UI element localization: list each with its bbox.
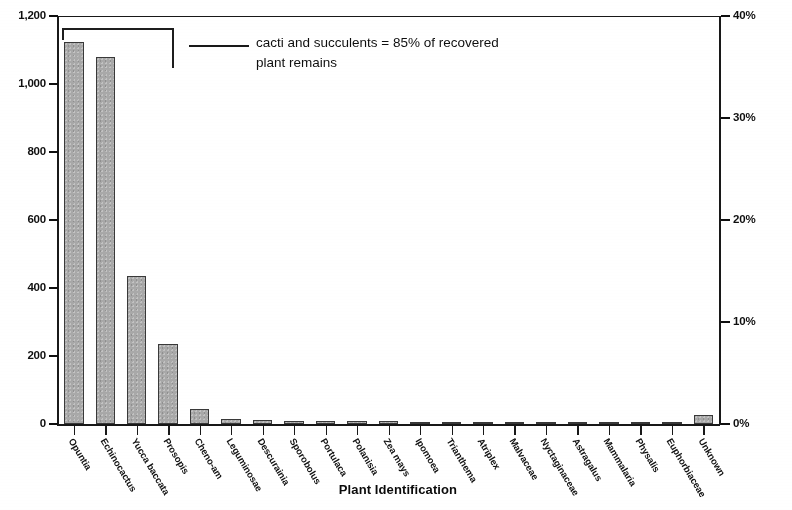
x-axis-tick	[640, 426, 641, 435]
y-axis-right-tick-label: 40%	[733, 9, 773, 21]
plot-top-border	[57, 16, 720, 17]
bar	[127, 276, 147, 424]
x-axis-tick	[577, 426, 578, 435]
y-axis-right-tick-label: 10%	[733, 315, 773, 327]
y-axis-left-tick	[49, 15, 58, 17]
x-axis-label: Astragalus	[570, 436, 604, 483]
y-axis-left-tick-label: 200	[0, 349, 46, 361]
y-axis-left-tick-label: 800	[0, 145, 46, 157]
x-axis-tick	[672, 426, 673, 435]
bar	[158, 344, 178, 424]
y-axis-right-tick-label: 30%	[733, 111, 773, 123]
x-axis-tick	[105, 426, 106, 435]
x-axis-tick	[231, 426, 232, 435]
y-axis-right-tick	[721, 423, 730, 425]
x-axis-tick	[546, 426, 547, 435]
x-axis-label: Descurainia	[256, 436, 293, 487]
bar	[221, 419, 241, 424]
x-axis-label: Opuntia	[67, 436, 95, 472]
x-axis-tick	[514, 426, 515, 435]
bar	[694, 415, 714, 425]
bar	[64, 42, 84, 425]
y-axis-left-tick	[49, 287, 58, 289]
bar	[253, 420, 273, 424]
x-axis-tick	[420, 426, 421, 435]
x-axis-label: Polanisia	[350, 436, 380, 477]
y-axis-left-tick	[49, 83, 58, 85]
x-axis-title: Plant Identification	[248, 482, 548, 497]
x-axis-tick	[74, 426, 75, 435]
bar	[316, 421, 336, 424]
x-axis-label: Unknown	[696, 436, 727, 478]
x-axis-label: Trianthema	[445, 436, 480, 484]
y-axis-left-tick-label: 1,000	[0, 77, 46, 89]
bracket-right-tick	[172, 28, 174, 68]
x-axis-label: Prosopis	[161, 436, 191, 476]
bar	[631, 422, 651, 424]
x-axis-tick	[357, 426, 358, 435]
x-axis-label: Atriplex	[476, 436, 503, 471]
x-axis-tick	[483, 426, 484, 435]
y-axis-right-tick	[721, 219, 730, 221]
annotation-line-1: cacti and succulents = 85% of recovered	[256, 35, 499, 50]
x-axis-label: Portulaca	[319, 436, 350, 478]
x-axis-label: Physalis	[633, 436, 662, 474]
bar	[284, 421, 304, 424]
y-axis-right-tick	[721, 117, 730, 119]
y-axis-right-tick-label: 0%	[733, 417, 773, 429]
annotation-leader-line	[189, 45, 249, 47]
y-axis-left-tick	[49, 423, 58, 425]
bar	[662, 422, 682, 424]
bar-chart: 02004006008001,0001,200 0%10%20%30%40% O…	[0, 0, 792, 510]
x-axis-tick	[452, 426, 453, 435]
y-axis-left-tick-label: 600	[0, 213, 46, 225]
y-axis-left-tick	[49, 355, 58, 357]
scan-grain-overlay	[0, 0, 792, 510]
x-axis-tick	[263, 426, 264, 435]
y-axis-right-tick	[721, 15, 730, 17]
y-axis-right-tick-label: 20%	[733, 213, 773, 225]
x-axis-label: Cheno-am	[193, 436, 226, 481]
y-axis-left-tick	[49, 219, 58, 221]
bar	[379, 421, 399, 424]
x-axis-tick	[703, 426, 704, 435]
y-axis-left-tick-label: 400	[0, 281, 46, 293]
bar	[347, 421, 367, 424]
bar	[568, 422, 588, 424]
y-axis-left-tick	[49, 151, 58, 153]
bar	[190, 409, 210, 424]
bracket-left-tick	[62, 28, 64, 40]
bar	[599, 422, 619, 424]
annotation-text: cacti and succulents = 85% of recovered …	[256, 33, 586, 72]
bracket-top-segment	[62, 28, 174, 30]
x-axis-label: Zea mays	[382, 436, 413, 478]
x-axis-label: Ipomoea	[413, 436, 442, 475]
x-axis-label: Mammalaria	[602, 436, 639, 488]
y-axis-left-tick-label: 1,200	[0, 9, 46, 21]
bar	[442, 422, 462, 424]
x-axis-tick	[168, 426, 169, 435]
annotation-line-2: plant remains	[256, 55, 337, 70]
x-axis-label: Malvaceae	[507, 436, 540, 482]
bar	[96, 57, 116, 424]
bar	[536, 422, 556, 424]
x-axis-tick	[389, 426, 390, 435]
bar	[410, 422, 430, 424]
x-axis-tick	[609, 426, 610, 435]
x-axis-tick	[137, 426, 138, 435]
y-axis-left-tick-label: 0	[0, 417, 46, 429]
x-axis-tick	[326, 426, 327, 435]
bar	[473, 422, 493, 424]
x-axis-label: Sporobolus	[287, 436, 323, 486]
bar	[505, 422, 525, 424]
x-axis-tick	[294, 426, 295, 435]
y-axis-right-tick	[721, 321, 730, 323]
x-axis-tick	[200, 426, 201, 435]
